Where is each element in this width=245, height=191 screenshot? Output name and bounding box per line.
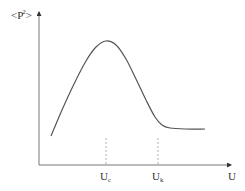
tick-uc: Uc: [100, 171, 111, 184]
tick-uk-sub: k: [160, 176, 164, 184]
tick-uk-base: U: [152, 170, 160, 182]
tick-uk: Uk: [152, 171, 163, 184]
y-axis-label: <P2>: [11, 9, 32, 21]
tick-uc-base: U: [100, 170, 108, 182]
x-axis-label: U: [228, 171, 236, 182]
curve: [51, 41, 205, 136]
diagram: [0, 0, 245, 191]
y-label-close: >: [26, 9, 32, 21]
tick-uc-sub: c: [108, 176, 111, 184]
